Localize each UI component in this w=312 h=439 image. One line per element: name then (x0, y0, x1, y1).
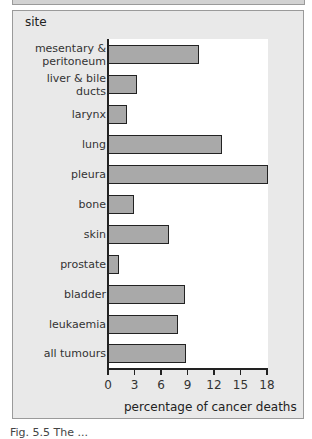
bar (108, 165, 268, 184)
bar (108, 315, 178, 334)
category-label: bone (79, 198, 106, 211)
x-tick-label: 12 (206, 378, 221, 392)
x-tick (134, 368, 136, 375)
bar (108, 75, 137, 94)
category-label: liver & bileducts (47, 72, 106, 98)
bar (108, 255, 119, 274)
category-label: all tumours (44, 347, 106, 360)
x-tick-label: 3 (131, 378, 139, 392)
bar (108, 344, 186, 363)
x-tick-label: 15 (233, 378, 248, 392)
category-label: pleura (71, 168, 106, 181)
figure-caption: Fig. 5.5 The ... (10, 426, 88, 439)
category-label: skin (84, 228, 106, 241)
x-tick (240, 368, 242, 375)
bar (108, 105, 127, 124)
top-frame-strip (12, 0, 305, 5)
category-label: mesentary &peritoneum (35, 42, 106, 68)
x-tick (160, 368, 162, 375)
category-label: bladder (64, 288, 106, 301)
category-label: prostate (60, 258, 106, 271)
x-tick-label: 0 (104, 378, 112, 392)
category-label: leukaemia (49, 318, 106, 331)
bar (108, 195, 134, 214)
x-tick-label: 6 (157, 378, 165, 392)
x-tick-label: 18 (259, 378, 274, 392)
bar (108, 285, 185, 304)
y-axis-line (107, 39, 109, 370)
x-tick (187, 368, 189, 375)
x-tick-label: 9 (184, 378, 192, 392)
bar (108, 225, 169, 244)
bar (108, 135, 222, 154)
bar (108, 45, 199, 64)
y-axis-title: site (25, 15, 47, 29)
x-axis-title: percentage of cancer deaths (124, 400, 297, 414)
x-tick (266, 368, 268, 375)
category-label: larynx (72, 108, 106, 121)
x-tick (213, 368, 215, 375)
x-tick (107, 368, 109, 375)
category-label: lung (82, 138, 106, 151)
